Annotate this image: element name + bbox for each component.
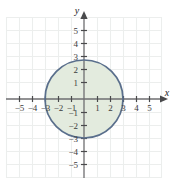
- x-tick-label-neg4: −4: [28, 103, 38, 113]
- x-tick-label-neg3: −3: [41, 103, 51, 113]
- x-tick-label-3: 3: [121, 103, 126, 113]
- x-axis-label: x: [164, 87, 170, 98]
- x-tick-label-5: 5: [147, 103, 152, 113]
- y-tick-label-neg1: −1: [68, 108, 78, 118]
- y-tick-label-2: 2: [74, 65, 79, 75]
- coordinate-plane-figure: −5 −4 −3 −2 −1 1 2 3 4 5 5 4 3 2 1 −1 −2…: [0, 0, 175, 186]
- x-tick-label-4: 4: [134, 103, 139, 113]
- y-tick-label-4: 4: [74, 39, 79, 49]
- graph-canvas: −5 −4 −3 −2 −1 1 2 3 4 5 5 4 3 2 1 −1 −2…: [0, 0, 175, 186]
- x-tick-label-neg5: −5: [15, 103, 25, 113]
- x-tick-label-1: 1: [95, 103, 100, 113]
- y-tick-label-1: 1: [74, 78, 79, 88]
- y-axis-label: y: [74, 5, 80, 16]
- x-tick-label-neg2: −2: [54, 103, 64, 113]
- y-tick-label-3: 3: [74, 52, 79, 62]
- y-tick-label-neg4: −4: [68, 147, 78, 157]
- y-tick-label-neg5: −5: [68, 160, 78, 170]
- y-tick-label-neg2: −2: [68, 121, 78, 131]
- y-tick-label-5: 5: [74, 26, 79, 36]
- x-tick-label-2: 2: [108, 103, 113, 113]
- y-tick-label-neg3: −3: [68, 134, 78, 144]
